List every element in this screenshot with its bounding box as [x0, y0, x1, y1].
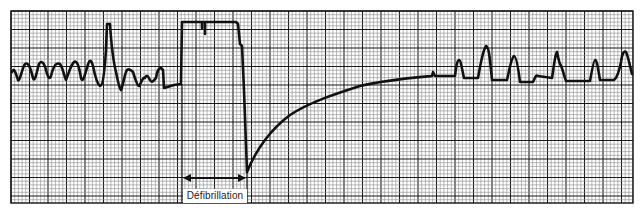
defibrillation-label: Défibrillation — [183, 189, 247, 203]
arrow-head-left-icon — [183, 174, 191, 182]
ecg-grid-paper — [11, 11, 633, 203]
arrow-head-right-icon — [238, 174, 246, 182]
ecg-strip — [0, 0, 642, 210]
